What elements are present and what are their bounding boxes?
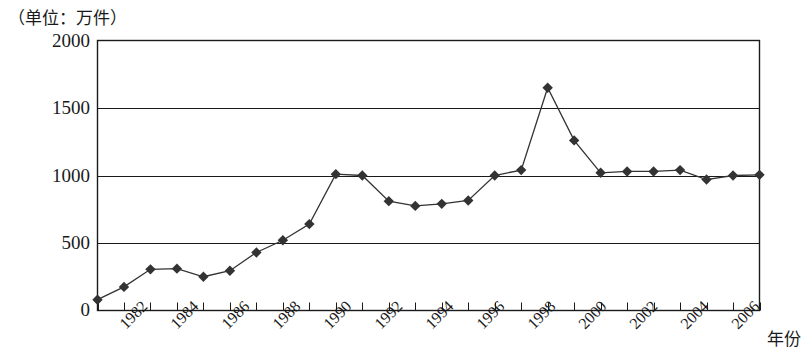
- x-axis-title: 年份: [767, 325, 801, 350]
- chart-container: （单位：万件） 2000 1500 1000 500 0 1982 1984 1…: [0, 0, 811, 357]
- data-point-1982: [119, 282, 129, 292]
- data-point-1994: [437, 199, 447, 209]
- data-point-1981: [92, 295, 102, 305]
- y-tick-label-500: 500: [20, 232, 90, 254]
- y-tick-label-1000: 1000: [20, 165, 90, 187]
- data-point-2006: [754, 170, 764, 180]
- data-point-1984: [172, 263, 182, 273]
- y-tick-label-2000: 2000: [20, 30, 90, 52]
- data-line: [98, 88, 760, 300]
- data-point-1983: [145, 264, 155, 274]
- data-point-1993: [410, 201, 420, 211]
- data-point-1985: [198, 272, 208, 282]
- data-point-2005: [728, 170, 738, 180]
- plot-area: [0, 0, 811, 357]
- data-point-1997: [516, 165, 526, 175]
- data-point-1990: [331, 169, 341, 179]
- data-point-1998: [542, 83, 552, 93]
- data-markers: [92, 83, 764, 305]
- data-point-1989: [304, 219, 314, 229]
- gridlines: [98, 109, 760, 244]
- y-tick-label-1500: 1500: [20, 97, 90, 119]
- plot-frame: [98, 41, 760, 311]
- unit-note: （单位：万件）: [8, 4, 127, 29]
- data-point-1986: [225, 265, 235, 275]
- data-point-1987: [251, 247, 261, 257]
- y-tick-label-0: 0: [20, 299, 90, 321]
- data-point-2003: [675, 165, 685, 175]
- data-point-2002: [648, 166, 658, 176]
- data-point-2001: [622, 166, 632, 176]
